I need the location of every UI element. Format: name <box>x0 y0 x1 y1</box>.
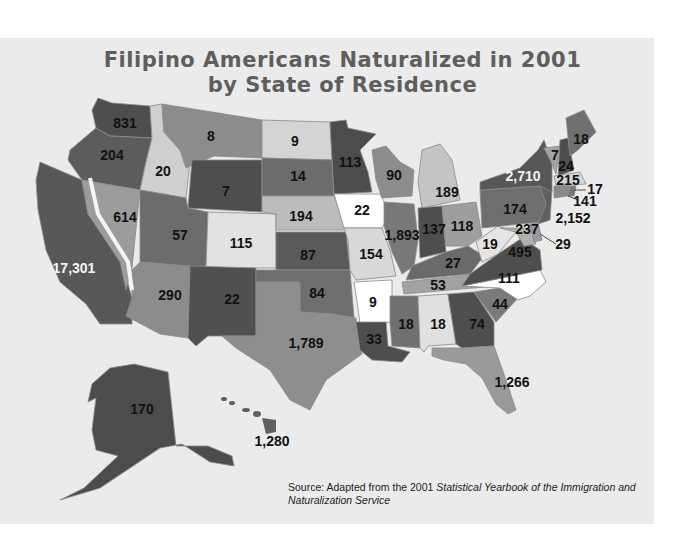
label-ME: 18 <box>573 131 589 147</box>
label-IN: 137 <box>422 221 446 237</box>
label-OH: 118 <box>451 218 474 234</box>
label-KS: 87 <box>300 247 316 263</box>
label-NM: 22 <box>224 291 240 307</box>
label-HI: 1,280 <box>254 433 289 449</box>
state-AK <box>60 364 234 500</box>
label-OK: 84 <box>309 285 325 301</box>
label-WI: 90 <box>386 167 402 183</box>
label-MT: 8 <box>207 128 215 144</box>
label-WY: 7 <box>222 183 230 199</box>
source-prefix: Source: Adapted from the 2001 <box>288 481 436 493</box>
label-NJ: 2,152 <box>555 210 590 226</box>
label-UT: 57 <box>172 227 188 243</box>
label-KY: 27 <box>445 255 461 271</box>
label-MD: 237 <box>515 221 539 237</box>
label-WA: 831 <box>113 115 137 131</box>
label-VA: 495 <box>508 244 532 260</box>
label-GA: 74 <box>469 316 485 332</box>
label-NH: 24 <box>558 158 574 174</box>
label-ND: 9 <box>291 133 299 149</box>
label-TN: 53 <box>430 277 446 293</box>
label-ID: 20 <box>155 163 171 179</box>
label-NE: 194 <box>289 208 313 224</box>
label-AL: 18 <box>430 316 446 332</box>
label-NC: 111 <box>498 270 520 286</box>
label-OR: 204 <box>100 147 124 163</box>
label-FL: 1,266 <box>494 374 529 390</box>
label-WV: 19 <box>482 236 498 252</box>
label-RI: 17 <box>587 181 603 197</box>
label-CA: 17,301 <box>53 260 96 276</box>
state-NY <box>480 140 552 192</box>
label-IA: 22 <box>354 202 370 218</box>
label-MI: 189 <box>435 184 459 200</box>
label-MA: 215 <box>556 172 580 188</box>
label-CO: 115 <box>230 235 253 251</box>
state-NM <box>188 266 256 346</box>
label-LA: 33 <box>366 331 382 347</box>
label-DE: 29 <box>555 236 571 252</box>
label-SD: 14 <box>290 168 306 184</box>
label-NV: 614 <box>113 209 137 225</box>
label-IL: 1,893 <box>384 227 419 243</box>
label-MN: 113 <box>339 154 362 170</box>
label-MO: 154 <box>359 246 383 262</box>
label-PA: 174 <box>503 201 527 217</box>
label-MS: 18 <box>398 316 414 332</box>
state-HI <box>221 397 276 434</box>
label-TX: 1,789 <box>288 335 323 351</box>
label-AR: 9 <box>369 294 377 310</box>
label-AK: 170 <box>130 401 154 417</box>
source-note: Source: Adapted from the 2001 Statistica… <box>288 481 685 507</box>
us-map: 831 204 17,301 20 614 8 7 57 115 290 22 … <box>0 0 685 541</box>
label-AZ: 290 <box>158 287 182 303</box>
label-NY: 2,710 <box>505 168 540 184</box>
label-SC: 44 <box>492 296 508 312</box>
